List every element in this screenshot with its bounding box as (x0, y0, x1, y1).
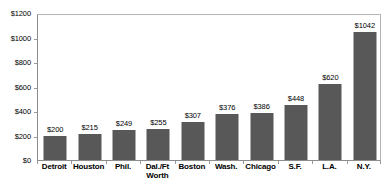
plot-area: $200$215$249$255$307$376$386$448$620$104… (37, 14, 381, 161)
bar-value-label: $215 (81, 124, 97, 132)
bar (147, 129, 170, 160)
bar-group: $448 (279, 15, 313, 160)
x-axis-category-label-line: N.Y. (342, 163, 386, 172)
bar (181, 122, 204, 160)
bar-value-label: $620 (322, 74, 338, 82)
x-axis: DetroitHoustonPhil.Dal./FtWorthBostonWas… (37, 163, 381, 189)
bar-group: $1042 (348, 15, 382, 160)
bar-group: $200 (38, 15, 72, 160)
x-axis-category-label-line: Worth (135, 172, 179, 181)
bar-group: $386 (244, 15, 278, 160)
bar-value-label: $376 (219, 104, 235, 112)
y-axis: $0$200$400$600$800$1000$1200 (0, 0, 34, 189)
bar (112, 130, 135, 161)
bar-value-label: $386 (253, 103, 269, 111)
bar-group: $307 (176, 15, 210, 160)
y-axis-tick-label: $600 (15, 84, 31, 92)
bar-value-label: $249 (116, 120, 132, 128)
bar-value-label: $255 (150, 119, 166, 127)
bars-layer: $200$215$249$255$307$376$386$448$620$104… (38, 15, 380, 160)
bar-chart: $0$200$400$600$800$1000$1200 $200$215$24… (0, 0, 392, 189)
y-axis-tick-label: $1000 (11, 35, 31, 43)
bar-group: $620 (313, 15, 347, 160)
bar (78, 134, 101, 160)
bar-value-label: $307 (185, 112, 201, 120)
bar-group: $255 (141, 15, 175, 160)
y-axis-tick-label: $800 (15, 59, 31, 67)
y-axis-tick-label: $0 (23, 157, 31, 165)
bar (250, 113, 273, 160)
bar (216, 114, 239, 160)
y-axis-tick-label: $200 (15, 133, 31, 141)
y-axis-tick-label: $1200 (11, 10, 31, 18)
y-axis-tick-label: $400 (15, 108, 31, 116)
bar-value-label: $200 (47, 126, 63, 134)
x-axis-category-label: N.Y. (342, 163, 386, 172)
bar (284, 105, 307, 160)
bar-group: $376 (210, 15, 244, 160)
bar-group: $249 (107, 15, 141, 160)
bar-value-label: $448 (288, 95, 304, 103)
bar (44, 136, 67, 161)
bar-value-label: $1042 (355, 22, 375, 30)
bar-group: $215 (72, 15, 106, 160)
bar (353, 32, 376, 160)
bar (319, 84, 342, 160)
